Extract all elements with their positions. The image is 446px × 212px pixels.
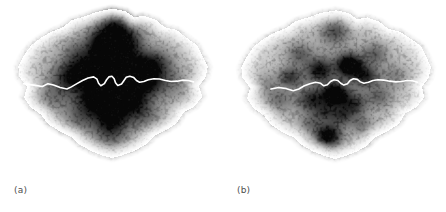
density-map-a xyxy=(0,0,223,178)
figure-container: (a) (b) xyxy=(0,0,446,212)
density-map-b xyxy=(223,0,446,178)
panel-a: (a) xyxy=(0,0,223,212)
panel-label-b: (b) xyxy=(237,186,250,195)
panel-label-a: (a) xyxy=(14,186,27,195)
panel-b: (b) xyxy=(223,0,446,212)
